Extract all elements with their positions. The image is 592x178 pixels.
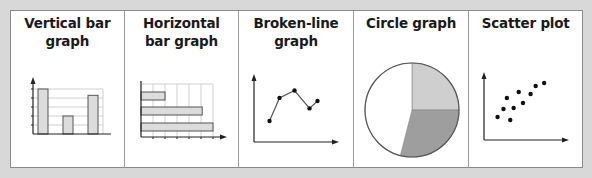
- data-point: [278, 96, 282, 100]
- data-point: [268, 119, 272, 123]
- bar: [141, 92, 165, 100]
- data-point: [308, 106, 312, 110]
- axis-arrow-up: [482, 72, 487, 79]
- panel-circle-graph: Circle graph: [354, 11, 470, 167]
- bar: [141, 107, 202, 115]
- pie-slice: [412, 63, 459, 110]
- axis-arrow-up: [31, 77, 36, 84]
- data-line: [270, 91, 318, 121]
- panel-scatter-plot: Scatter plot: [469, 11, 582, 167]
- bar: [88, 95, 98, 134]
- panel-broken-line-graph: Broken-line graph: [239, 11, 354, 167]
- data-point: [512, 106, 516, 110]
- axis-arrow-right: [562, 138, 569, 143]
- data-point: [534, 84, 538, 88]
- data-point: [496, 115, 500, 119]
- data-point: [508, 118, 512, 122]
- data-point: [316, 99, 320, 103]
- circle-graph-icon: [354, 11, 470, 169]
- scatter-plot-icon: [469, 11, 582, 169]
- horizontal-bar-graph-icon: [125, 11, 240, 169]
- data-point: [521, 101, 525, 105]
- bar: [63, 116, 73, 134]
- axis-arrow-right: [220, 135, 227, 140]
- broken-line-graph-icon: [239, 11, 354, 169]
- data-point: [542, 81, 546, 85]
- vertical-bar-graph-icon: [11, 11, 125, 169]
- data-point: [293, 88, 297, 92]
- graph-types-table: Vertical bar graph Horizontal bar graph …: [10, 10, 583, 168]
- panel-horizontal-bar-graph: Horizontal bar graph: [125, 11, 240, 167]
- data-point: [529, 92, 533, 96]
- axis-arrow-right: [332, 140, 339, 145]
- data-point: [505, 96, 509, 100]
- data-point: [502, 107, 506, 111]
- bar: [38, 89, 48, 134]
- data-point: [517, 90, 521, 94]
- bar: [141, 123, 213, 131]
- axis-arrow-up: [252, 74, 257, 81]
- panel-vertical-bar-graph: Vertical bar graph: [11, 11, 125, 167]
